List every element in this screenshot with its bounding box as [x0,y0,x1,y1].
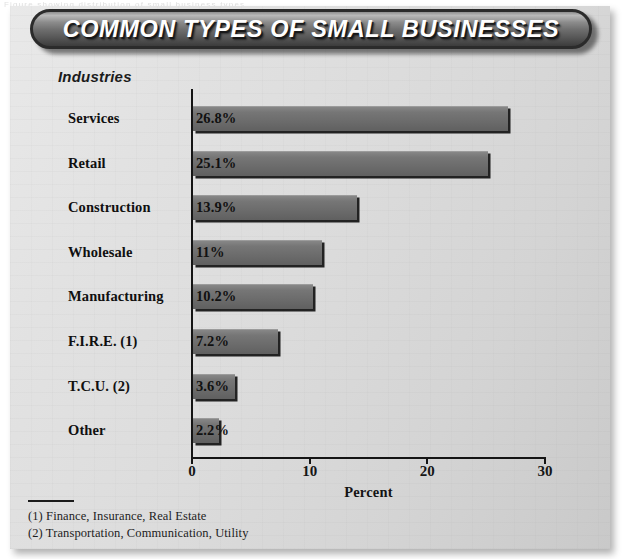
title-bar: COMMON TYPES OF SMALL BUSINESSES [30,9,592,49]
figure-panel [10,6,610,549]
chart-y-axis-title: Industries [58,68,132,85]
footnote-1: (1) Finance, Insurance, Real Estate [28,509,206,524]
footnote-2: (2) Transportation, Communication, Utili… [28,526,249,541]
scanned-page: Figure showing distribution of small bus… [0,0,632,559]
page-title: COMMON TYPES OF SMALL BUSINESSES [63,16,560,43]
footnote-rule [28,500,74,502]
